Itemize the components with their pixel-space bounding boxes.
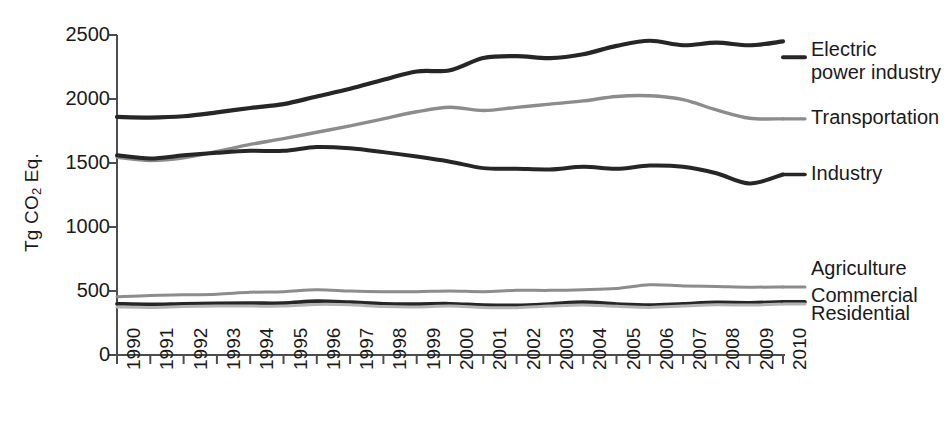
x-tick-label-2002: 2002 <box>524 328 543 370</box>
x-tick-label-1996: 1996 <box>324 328 343 370</box>
x-tick-label-2000: 2000 <box>457 328 476 370</box>
legend-label-agriculture: Agriculture <box>811 257 907 280</box>
x-tick-label-1998: 1998 <box>390 328 409 370</box>
x-tick-label-1992: 1992 <box>191 328 210 370</box>
x-tick-label-1991: 1991 <box>157 328 176 370</box>
x-tick-label-2009: 2009 <box>757 328 776 370</box>
x-tick-label-1997: 1997 <box>357 328 376 370</box>
legend-label-electric-power-industry: Electricpower industry <box>811 38 941 84</box>
legend-label-industry: Industry <box>811 162 882 185</box>
chart-figure: Tg CO2 Eq. 05001000150020002500 19901991… <box>0 0 944 438</box>
x-tick-label-2008: 2008 <box>723 328 742 370</box>
x-tick-label-2004: 2004 <box>590 328 609 370</box>
legend-label-line: power industry <box>811 61 941 84</box>
legend-label-line: Industry <box>811 162 882 185</box>
x-tick-label-1994: 1994 <box>257 328 276 370</box>
legend-label-line: Residential <box>811 302 910 325</box>
x-axis-tick-labels: 1990199119921993199419951996199719981999… <box>0 0 944 438</box>
x-tick-label-1995: 1995 <box>291 328 310 370</box>
x-tick-label-2003: 2003 <box>557 328 576 370</box>
x-tick-label-2005: 2005 <box>624 328 643 370</box>
x-tick-label-1993: 1993 <box>224 328 243 370</box>
legend-label-line: Agriculture <box>811 257 907 280</box>
legend-label-line: Electric <box>811 38 941 61</box>
legend-label-line: Transportation <box>811 106 939 129</box>
legend-label-residential: Residential <box>811 302 910 325</box>
x-tick-label-2001: 2001 <box>490 328 509 370</box>
x-tick-label-1999: 1999 <box>424 328 443 370</box>
x-tick-label-2007: 2007 <box>690 328 709 370</box>
legend-label-transportation: Transportation <box>811 106 939 129</box>
x-tick-label-2006: 2006 <box>657 328 676 370</box>
x-tick-label-1990: 1990 <box>124 328 143 370</box>
x-tick-label-2010: 2010 <box>790 328 809 370</box>
